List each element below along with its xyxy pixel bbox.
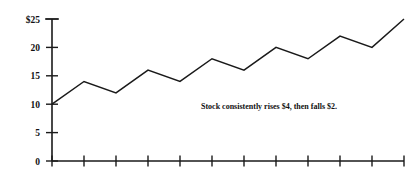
stock-line-chart: $25 20 15 10 5 0 Stock consis	[0, 0, 417, 174]
series-line-stock-price	[52, 19, 404, 104]
y-tick-label-20: 20	[31, 43, 41, 53]
y-tick-label-15: 15	[31, 71, 41, 81]
chart-annotation: Stock consistently rises $4, then falls …	[201, 102, 337, 111]
y-tick-label-10: 10	[31, 100, 41, 110]
y-tick-label-0: 0	[35, 157, 40, 167]
chart-canvas: $25 20 15 10 5 0 Stock consis	[0, 0, 417, 174]
data-series-stock-price	[52, 19, 404, 104]
y-tick-label-25: $25	[26, 15, 41, 25]
y-axis-tick-labels: $25 20 15 10 5 0	[26, 15, 41, 167]
y-tick-label-5: 5	[35, 128, 40, 138]
y-axis	[45, 19, 59, 161]
